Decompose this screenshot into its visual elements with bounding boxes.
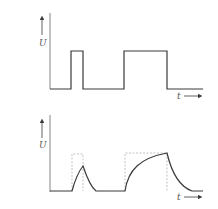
y-axis-label: U (39, 140, 47, 150)
diagram-canvas: U t U t (0, 0, 218, 209)
input-pulse-diagram: U t (39, 13, 203, 101)
pulse-signal (50, 51, 203, 89)
y-axis-label: U (39, 38, 47, 48)
dashed-pulse-outlines (72, 153, 167, 191)
x-axis-label: t (177, 91, 181, 101)
rc-response-diagram: U t (39, 115, 203, 202)
response-signal (50, 153, 203, 191)
x-axis-label: t (177, 192, 181, 202)
